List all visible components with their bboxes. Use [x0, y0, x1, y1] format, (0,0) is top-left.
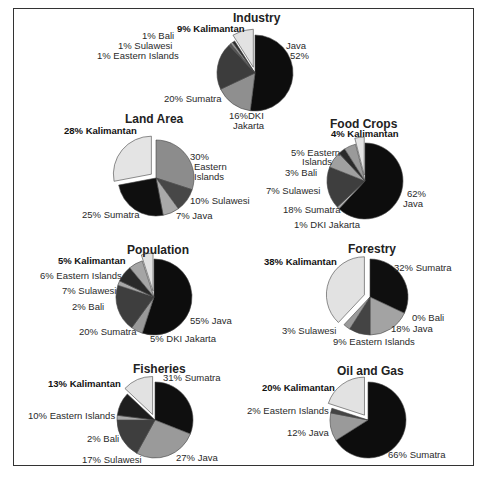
industry-sumatra-label: 20% Sumatra: [164, 94, 222, 104]
industry-dki-name: Jakarta: [233, 121, 264, 131]
food-crops-sumatra-label: 18% Sumatra: [283, 205, 341, 215]
population-eastern-label: 6% Eastern Islands: [40, 271, 122, 281]
population-dki-label: 5% DKI Jakarta: [150, 334, 216, 344]
fisheries-kalimantan-label: 13% Kalimantan: [48, 379, 121, 389]
food-crops-bali-label: 3% Bali: [285, 168, 317, 178]
industry-kalimantan-label: 9% Kalimantan: [177, 24, 245, 34]
pie-slice-kalimantan: [113, 136, 151, 181]
population-sulawesi-label: 7% Sulawesi: [62, 286, 116, 296]
population-java-label: 55% Java: [190, 316, 232, 326]
forestry-sumatra-label: 32% Sumatra: [394, 263, 452, 273]
pie-population: [116, 253, 192, 335]
oil-gas-java-label: 12% Java: [287, 428, 329, 438]
population-title: Population: [127, 243, 189, 257]
fisheries-eastern-label: 10% Eastern Islands: [28, 411, 115, 421]
food-crops-java-name: Java: [403, 199, 423, 209]
forestry-java-label: 18% Java: [391, 324, 433, 334]
forestry-bali-label: 0% Bali: [412, 313, 444, 323]
oil-gas-sumatra-label: 66% Sumatra: [388, 450, 446, 460]
land-area-title: Land Area: [125, 112, 183, 126]
food-crops-sulawesi-label: 7% Sulawesi: [266, 186, 320, 196]
land-area-sulawesi-label: 10% Sulawesi: [190, 196, 250, 206]
oil-gas-kalimantan-label: 20% Kalimantan: [262, 383, 335, 393]
pie-industry: [217, 29, 293, 111]
population-kalimantan-label: 5% Kalimantan: [58, 256, 126, 266]
food-crops-dki-label: 1% DKI Jakarta: [294, 220, 360, 230]
oil-gas-title: Oil and Gas: [337, 364, 404, 378]
population-bali-label: 2% Bali: [72, 302, 104, 312]
food-crops-kalimantan-label: 4% Kalimantan: [331, 129, 399, 139]
pie-charts-canvas: [0, 0, 487, 478]
forestry-kalimantan-label: 38% Kalimantan: [264, 257, 337, 267]
fisheries-bali-label: 2% Bali: [87, 434, 119, 444]
forestry-sulawesi-label: 3% Sulawesi: [282, 326, 336, 336]
industry-eastern-label: 1% Eastern Islands: [97, 51, 179, 61]
fisheries-java-label: 27% Java: [176, 453, 218, 463]
pie-fisheries: [117, 376, 193, 458]
land-area-sumatra-label: 25% Sumatra: [82, 210, 140, 220]
oil-gas-eastern-label: 2% Eastern Islands: [247, 406, 329, 416]
forestry-eastern-label: 9% Eastern Islands: [333, 337, 415, 347]
land-area-kalimantan-label: 28% Kalimantan: [64, 126, 137, 136]
population-sumatra-label: 20% Sumatra: [79, 327, 137, 337]
land-area-java-label: 7% Java: [176, 211, 212, 221]
pie-land-area: [113, 136, 194, 216]
pie-oil-and-gas: [328, 377, 406, 458]
fisheries-sumatra-label: 31% Sumatra: [163, 373, 221, 383]
industry-java-pct: 52%: [290, 51, 309, 61]
forestry-title: Forestry: [348, 242, 396, 256]
fisheries-sulawesi-label: 17% Sulawesi: [82, 455, 142, 465]
food-crops-eastern-2: Islands: [302, 157, 332, 167]
land-area-eastern-2: Islands: [194, 172, 224, 182]
